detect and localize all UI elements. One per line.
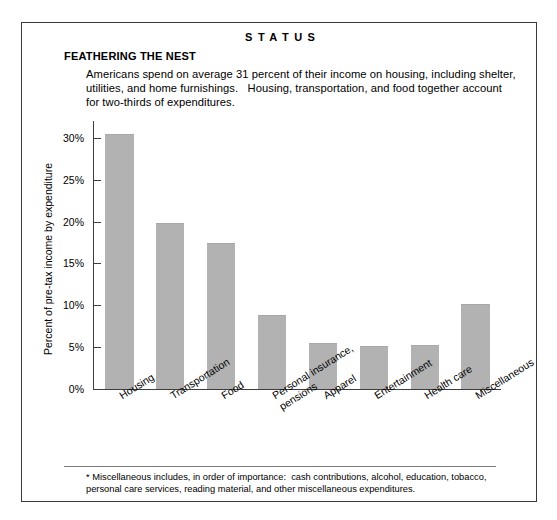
y-axis-tick-label: 30% <box>50 132 84 144</box>
plot-area <box>94 121 501 389</box>
y-axis-tick-label: 5% <box>50 341 84 353</box>
y-axis-tick-label: 25% <box>50 174 84 186</box>
x-axis-tick-labels: HousingTransportationFoodPersonal insura… <box>94 391 524 481</box>
y-axis-tick-label: 10% <box>50 299 84 311</box>
y-axis-tick-mark <box>94 305 101 306</box>
y-axis-tick-label: 20% <box>50 216 84 228</box>
y-axis-tick-mark <box>94 180 101 181</box>
footnote-divider <box>64 466 496 467</box>
y-axis-tick-label: 15% <box>50 257 84 269</box>
y-axis-tick-mark <box>94 263 101 264</box>
status-panel: STATUS FEATHERING THE NEST Americans spe… <box>21 22 537 502</box>
y-axis-tick-mark <box>94 222 101 223</box>
bar <box>105 134 133 389</box>
footnote-text: * Miscellaneous includes, in order of im… <box>86 472 516 495</box>
bar <box>156 223 184 389</box>
y-axis-tick-mark <box>94 138 101 139</box>
bar <box>258 315 286 389</box>
bar-chart: Percent of pre-tax income by expenditure… <box>22 23 538 503</box>
y-axis-tick-mark <box>94 347 101 348</box>
y-axis-tick-labels: 30%25%20%15%10%5%0% <box>50 23 84 503</box>
y-axis-tick-label: 0% <box>50 383 84 395</box>
